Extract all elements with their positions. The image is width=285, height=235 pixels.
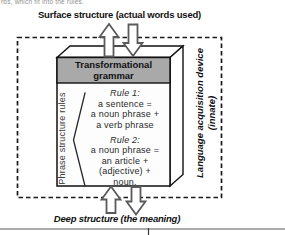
rule-1-line: a verb phrase bbox=[80, 120, 170, 131]
grammar-box-side-face bbox=[170, 46, 183, 186]
rule-2-line: an article + bbox=[80, 156, 170, 167]
rules-block: Rule 1: a sentence = a noun phrase + a v… bbox=[80, 88, 170, 187]
rule-2-title: Rule 2: bbox=[80, 135, 170, 146]
textbook-figure-language-acquisition: rbs, which fit into the rules. Surface s… bbox=[0, 0, 285, 235]
rule-2-line: a noun phrase = bbox=[80, 145, 170, 156]
up-arrow-icon-bottom bbox=[102, 187, 121, 214]
phrase-structure-rules-label: Phrase structure rules bbox=[57, 87, 68, 191]
rule-2-line: (adjective) + bbox=[80, 166, 170, 177]
down-arrow-icon-bottom bbox=[127, 187, 146, 215]
rule-1-line: a sentence = bbox=[80, 99, 170, 110]
lad-label-line2: (innate) bbox=[206, 38, 218, 188]
language-acquisition-device-label: Language acquisition device (innate) bbox=[194, 38, 218, 188]
rule-1-line: a noun phrase + bbox=[80, 109, 170, 120]
deep-structure-label: Deep structure (the meaning) bbox=[12, 213, 222, 224]
grammar-box-top-face bbox=[57, 46, 183, 58]
rule-1-title: Rule 1: bbox=[80, 88, 170, 99]
surface-structure-label: Surface structure (actual words used) bbox=[17, 9, 222, 20]
box-header-label: Transformational grammar bbox=[57, 59, 170, 81]
body-text-fragment: rbs, which fit into the rules. bbox=[1, 0, 84, 5]
rule-2-line: noun. bbox=[80, 177, 170, 188]
lad-label-line1: Language acquisition device bbox=[194, 38, 206, 188]
